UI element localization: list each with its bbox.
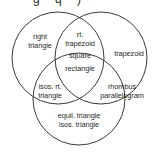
venn-diagram-figure: g q ) right triangle rt. trapezoid trape… xyxy=(0,0,159,159)
venn-circles-svg xyxy=(0,0,159,159)
right-circle xyxy=(55,12,147,104)
